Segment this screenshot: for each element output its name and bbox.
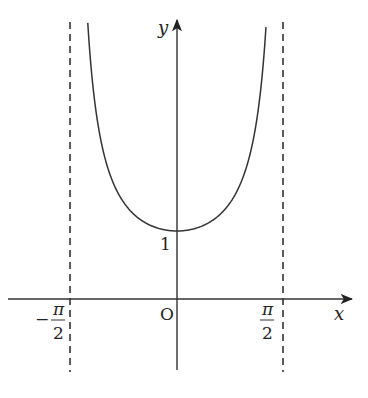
x-tick-pi-half: π 2	[260, 299, 274, 343]
x-tick-neg-pi-half: − π 2	[35, 299, 65, 343]
denominator: 2	[53, 323, 64, 343]
denominator: 2	[262, 323, 273, 343]
origin-label: O	[160, 304, 174, 324]
y-tick-1: 1	[160, 234, 171, 254]
x-axis-label: x	[334, 303, 344, 324]
pi-numerator: π	[261, 299, 274, 319]
sec-graph: y x O 1 − π 2 π 2	[0, 0, 368, 398]
y-axis-label: y	[157, 17, 169, 38]
minus-sign: −	[35, 309, 49, 329]
pi-numerator: π	[52, 299, 65, 319]
